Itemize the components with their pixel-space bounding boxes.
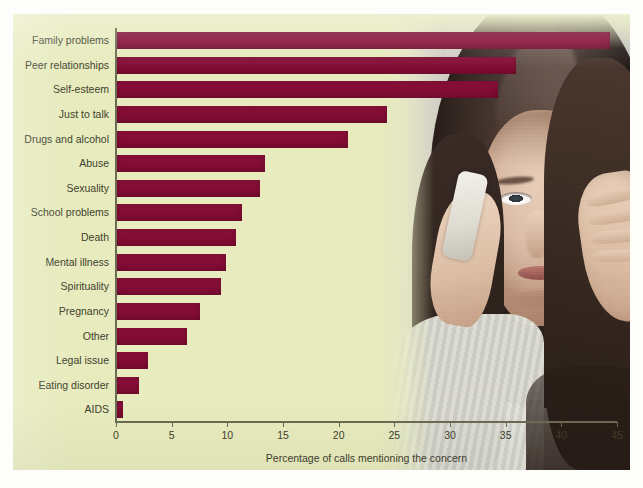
bar-row: Pregnancy xyxy=(116,299,617,324)
bar-row: Spirituality xyxy=(116,274,617,299)
bar xyxy=(116,229,236,246)
category-label: Pregnancy xyxy=(59,302,109,320)
x-tick-label: 40 xyxy=(555,429,567,441)
x-tick-label: 30 xyxy=(444,429,456,441)
bar xyxy=(116,32,610,49)
category-label: School problems xyxy=(31,203,109,221)
bar-row: Family problems xyxy=(116,28,617,53)
x-tick-mark xyxy=(116,422,117,427)
bar xyxy=(116,328,187,345)
bar-row: Other xyxy=(116,324,617,349)
bar xyxy=(116,401,123,418)
y-axis-spine xyxy=(115,28,117,422)
bar-row: Abuse xyxy=(116,151,617,176)
bar-row: Self-esteem xyxy=(116,77,617,102)
x-tick-mark xyxy=(561,422,562,427)
category-label: Spirituality xyxy=(61,277,109,295)
x-tick-label: 20 xyxy=(333,429,345,441)
x-tick-mark xyxy=(172,422,173,427)
plot-area: Family problemsPeer relationshipsSelf-es… xyxy=(116,28,617,422)
bar xyxy=(116,254,226,271)
figure: Family problemsPeer relationshipsSelf-es… xyxy=(0,0,643,488)
x-axis-spine xyxy=(115,421,617,423)
x-tick-label: 10 xyxy=(221,429,233,441)
x-tick-label: 25 xyxy=(388,429,400,441)
chart-panel: Family problemsPeer relationshipsSelf-es… xyxy=(13,14,630,470)
bar-row: School problems xyxy=(116,200,617,225)
bar xyxy=(116,180,260,197)
category-label: Sexuality xyxy=(66,179,109,197)
x-tick-label: 15 xyxy=(277,429,289,441)
category-label: Mental illness xyxy=(45,253,109,271)
category-label: Eating disorder xyxy=(38,376,109,394)
category-label: Abuse xyxy=(79,154,109,172)
bar xyxy=(116,155,265,172)
bar-row: Sexuality xyxy=(116,176,617,201)
x-tick-label: 45 xyxy=(611,429,623,441)
bar xyxy=(116,106,387,123)
category-label: Drugs and alcohol xyxy=(24,130,109,148)
bar-row: AIDS xyxy=(116,397,617,422)
x-tick-label: 5 xyxy=(169,429,175,441)
bar xyxy=(116,352,148,369)
x-tick-mark xyxy=(394,422,395,427)
x-tick-mark xyxy=(283,422,284,427)
bar xyxy=(116,204,242,221)
bar-row: Mental illness xyxy=(116,250,617,275)
category-label: Legal issue xyxy=(56,351,109,369)
x-axis-label: Percentage of calls mentioning the conce… xyxy=(116,452,617,464)
bar-row: Eating disorder xyxy=(116,373,617,398)
bar xyxy=(116,131,348,148)
bar xyxy=(116,57,516,74)
x-tick-mark xyxy=(227,422,228,427)
bar xyxy=(116,81,498,98)
bar xyxy=(116,303,200,320)
bar-row: Death xyxy=(116,225,617,250)
category-label: Other xyxy=(83,327,109,345)
category-label: Self-esteem xyxy=(53,80,109,98)
category-label: Peer relationships xyxy=(25,56,109,74)
x-tick-mark xyxy=(339,422,340,427)
bar-row: Just to talk xyxy=(116,102,617,127)
x-tick-label: 35 xyxy=(500,429,512,441)
bar xyxy=(116,377,139,394)
x-tick-mark xyxy=(506,422,507,427)
category-label: Family problems xyxy=(32,31,109,49)
category-label: Death xyxy=(81,228,109,246)
bar xyxy=(116,278,221,295)
x-tick-label: 0 xyxy=(113,429,119,441)
x-tick-mark xyxy=(450,422,451,427)
category-label: Just to talk xyxy=(59,105,109,123)
bar-row: Drugs and alcohol xyxy=(116,127,617,152)
bar-row: Legal issue xyxy=(116,348,617,373)
category-label: AIDS xyxy=(84,400,109,418)
x-tick-mark xyxy=(617,422,618,427)
bar-row: Peer relationships xyxy=(116,53,617,78)
